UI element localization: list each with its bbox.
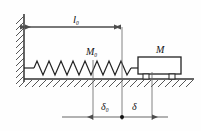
label-delta0: δ0 bbox=[101, 101, 109, 113]
label-l0: l0 bbox=[73, 13, 79, 26]
ground-hatching bbox=[25, 80, 193, 87]
cart-wheels bbox=[143, 74, 175, 79]
cart-block bbox=[138, 57, 181, 79]
ground bbox=[24, 79, 194, 87]
diagram-canvas: l0 M0 M δ0 δ bbox=[0, 0, 201, 131]
label-M0: M0 bbox=[85, 46, 97, 58]
wall bbox=[16, 14, 24, 87]
dimension-l0 bbox=[25, 24, 121, 29]
wall-hatching bbox=[16, 16, 24, 87]
dimension-delta bbox=[62, 114, 168, 119]
physics-diagram: l0 M0 M δ0 δ bbox=[0, 0, 201, 131]
equilibrium-dot bbox=[120, 115, 124, 119]
label-M: M bbox=[155, 44, 165, 55]
spring bbox=[24, 61, 138, 75]
label-delta: δ bbox=[132, 101, 137, 112]
